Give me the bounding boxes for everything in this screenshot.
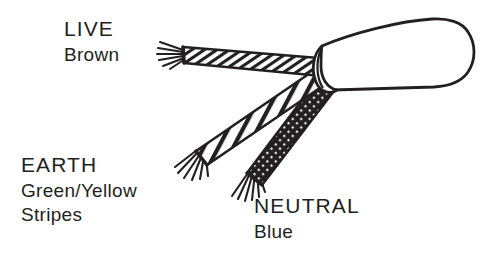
- live-wire: [157, 42, 332, 77]
- outer-sheath: [313, 19, 474, 93]
- label-neutral-name: NEUTRAL: [254, 193, 360, 220]
- cable-identification-figure: LIVE Brown EARTH Green/Yellow Stripes NE…: [0, 0, 493, 264]
- label-earth-colour: Green/Yellow: [21, 179, 137, 203]
- label-live-colour: Brown: [64, 43, 119, 67]
- label-earth-name: EARTH: [21, 152, 137, 179]
- label-neutral: NEUTRAL Blue: [254, 193, 360, 244]
- label-earth-pattern: Stripes: [21, 203, 137, 227]
- label-live: LIVE Brown: [64, 16, 119, 67]
- outer-sheath-body: [317, 19, 474, 90]
- label-live-name: LIVE: [64, 16, 119, 43]
- live-wire-frayed-strands: [157, 42, 185, 69]
- label-earth: EARTH Green/Yellow Stripes: [21, 152, 137, 228]
- label-neutral-colour: Blue: [254, 220, 360, 244]
- live-wire-insulation: [183, 47, 332, 77]
- live-wire-cut-end: [183, 47, 184, 63]
